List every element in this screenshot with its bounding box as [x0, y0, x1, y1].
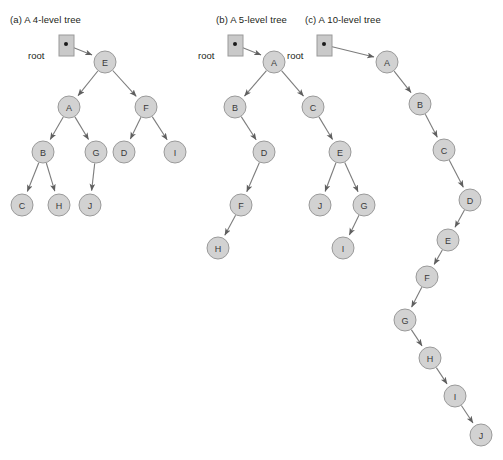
tree-edge	[394, 71, 411, 93]
tree-node-label: D	[261, 148, 268, 158]
tree-node: B	[409, 93, 431, 115]
tree-edge	[247, 163, 260, 192]
tree-node-label: G	[92, 148, 99, 158]
tree-node: G	[353, 194, 375, 216]
tree-node-label: C	[441, 146, 448, 156]
tree-node: C	[433, 139, 455, 161]
tree-node-label: A	[384, 58, 390, 68]
tree-node-label: D	[467, 196, 474, 206]
tree-edge	[75, 117, 89, 140]
tree-node: H	[207, 237, 229, 259]
tree-node-label: E	[445, 236, 451, 246]
tree-node-label: B	[40, 148, 46, 158]
tree-node-label: C	[310, 103, 317, 113]
tree-node: E	[437, 229, 459, 251]
tree-node: J	[79, 194, 101, 216]
tree-node: H	[48, 194, 70, 216]
nodes-group: EAFBGDICHJABCDEFJGHIABCDEFGHIJ	[11, 35, 492, 446]
tree-node-label: G	[401, 316, 408, 326]
tree-node: I	[444, 385, 466, 407]
tree-edge	[434, 250, 442, 264]
tree-node: F	[135, 96, 157, 118]
edges-group	[27, 45, 473, 423]
tree-node: F	[416, 266, 438, 288]
tree-node: D	[113, 141, 135, 163]
tree-node: C	[11, 194, 33, 216]
tree-edge	[319, 117, 333, 140]
tree-node-label: I	[454, 392, 457, 402]
tree-node-label: F	[238, 201, 244, 211]
tree-node-label: G	[360, 201, 367, 211]
tree-node: I	[164, 141, 186, 163]
tree-edge	[78, 71, 98, 96]
tree-edge	[325, 163, 336, 192]
tree-edge	[244, 71, 266, 96]
tree-edge	[130, 117, 141, 139]
panel-caption: (c) A 10-level tree	[305, 14, 381, 25]
tree-node: A	[263, 51, 285, 73]
tree-edge	[411, 330, 422, 346]
root-pointer-label: root	[287, 50, 303, 61]
tree-node: B	[224, 96, 246, 118]
tree-node: F	[230, 194, 252, 216]
tree-edge	[349, 215, 359, 235]
tree-edge	[46, 163, 54, 191]
tree-node: G	[394, 309, 416, 331]
tree-node-label: J	[479, 431, 484, 441]
tree-node-label: E	[337, 148, 343, 158]
tree-node: D	[253, 141, 275, 163]
root-pointer-label: root	[198, 50, 214, 61]
tree-node-label: E	[102, 58, 108, 68]
panel-caption: (a) A 4-level tree	[10, 14, 81, 25]
tree-node-label: A	[271, 58, 277, 68]
tree-node-label: I	[174, 148, 177, 158]
tree-edge	[412, 287, 422, 307]
tree-edge	[241, 117, 256, 140]
tree-figure: EAFBGDICHJABCDEFJGHIABCDEFGHIJ (a) A 4-l…	[0, 0, 503, 460]
tree-edge	[282, 71, 304, 96]
tree-node-label: A	[66, 103, 72, 113]
tree-node-label: J	[88, 201, 93, 211]
tree-node: I	[332, 237, 354, 259]
tree-node-label: D	[121, 148, 128, 158]
panel-caption: (b) A 5-level tree	[216, 14, 287, 25]
tree-node: J	[309, 194, 331, 216]
root-pointer-dot	[64, 42, 68, 46]
tree-node-label: I	[342, 244, 345, 254]
tree-node: C	[302, 96, 324, 118]
tree-node: B	[32, 141, 54, 163]
tree-node-label: J	[318, 201, 323, 211]
root-pointer-label: root	[28, 50, 44, 61]
tree-edge	[50, 117, 63, 139]
tree-edge	[345, 162, 358, 191]
tree-node: D	[459, 189, 481, 211]
tree-node-label: H	[215, 244, 222, 254]
tree-node-label: H	[427, 354, 434, 364]
tree-edge	[225, 215, 236, 235]
root-pointer-dot	[322, 42, 326, 46]
tree-node-label: F	[143, 103, 149, 113]
tree-node-label: F	[424, 273, 430, 283]
tree-node-label: H	[56, 201, 63, 211]
tree-edge	[113, 71, 136, 97]
tree-diagram-svg: EAFBGDICHJABCDEFJGHIABCDEFGHIJ	[0, 0, 503, 460]
tree-node: E	[329, 141, 351, 163]
tree-edge	[455, 210, 464, 227]
tree-edge	[425, 114, 437, 137]
tree-edge	[436, 368, 447, 384]
tree-node: G	[85, 141, 107, 163]
tree-node-label: B	[417, 100, 423, 110]
tree-node-label: B	[232, 103, 238, 113]
tree-node: A	[376, 51, 398, 73]
tree-edge	[449, 160, 463, 187]
tree-node-label: C	[19, 201, 26, 211]
tree-node: H	[419, 347, 441, 369]
tree-node: J	[470, 424, 492, 446]
tree-edge	[92, 163, 95, 190]
root-pointer-dot	[233, 42, 237, 46]
tree-edge	[461, 406, 473, 423]
tree-node: A	[58, 96, 80, 118]
tree-node: E	[94, 51, 116, 73]
tree-edge	[152, 117, 167, 140]
tree-edge	[27, 163, 38, 192]
